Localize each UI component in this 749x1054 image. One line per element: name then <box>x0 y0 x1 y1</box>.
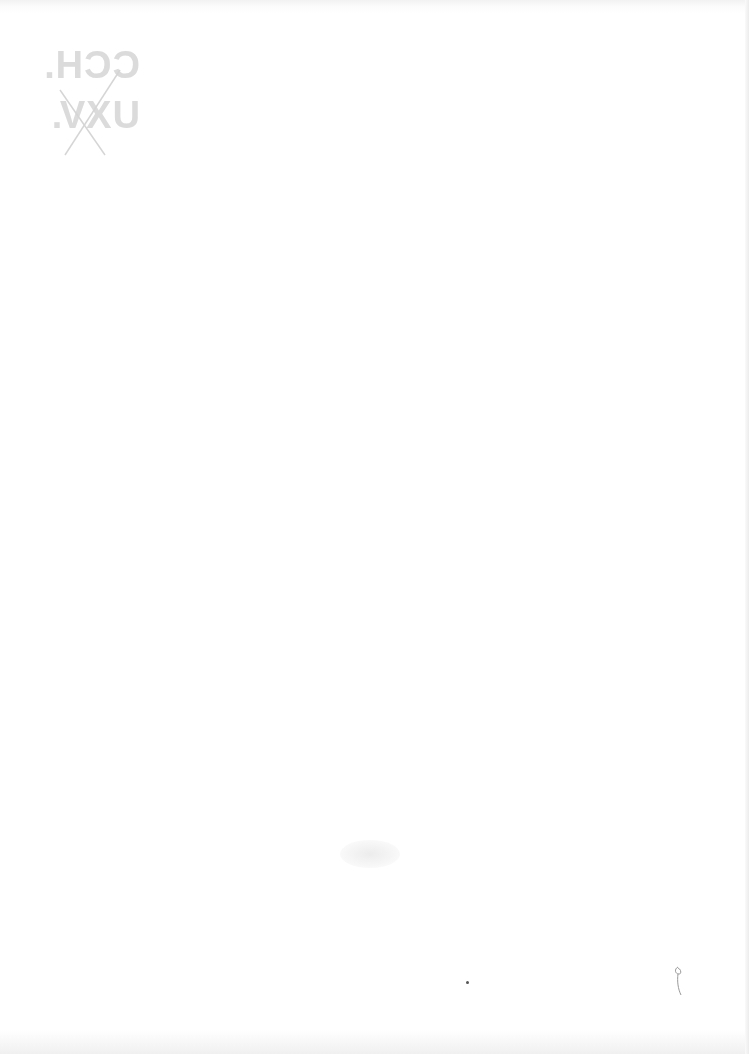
ink-speck <box>466 981 469 984</box>
pencil-squiggle-icon <box>672 965 686 997</box>
page-edge-shadow <box>745 0 749 1054</box>
cross-out-mark-icon <box>40 40 140 160</box>
scanned-page: CCH. UXV. <box>0 0 749 1054</box>
bleed-through-stamp: CCH. UXV. <box>40 40 140 160</box>
paper-smudge <box>340 840 400 868</box>
